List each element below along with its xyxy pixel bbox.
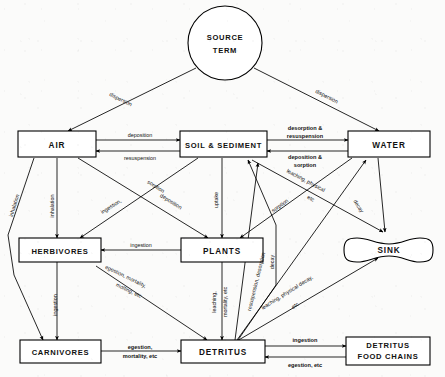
label-water-to-plants: sorption xyxy=(270,197,289,213)
air-label: AIR xyxy=(49,141,66,150)
diagram-canvas: SOURCE TERM AIR SOIL & SEDIMENT WATER HE… xyxy=(0,0,445,377)
label-soil-to-plants: uptake xyxy=(213,192,219,208)
label-soil-to-water-line2: resuspension xyxy=(287,133,324,139)
label-water-to-soil-line2: sorption xyxy=(294,162,317,168)
label-air-to-herbivores: inhalation xyxy=(49,194,55,217)
label-soil-to-sink-line1: leaching, physical xyxy=(286,168,326,193)
node-sink[interactable]: SINK xyxy=(344,238,433,262)
label-soil-to-herbivores-line2: deposition xyxy=(159,192,183,210)
detritus-label: DETRITUS xyxy=(199,348,247,357)
node-source-term[interactable]: SOURCE TERM xyxy=(188,6,262,80)
soil-sediment-label: SOIL & SEDIMENT xyxy=(185,141,262,150)
plants-label: PLANTS xyxy=(203,247,241,256)
edge-source-to-water xyxy=(254,68,379,131)
label-soil-to-air: resuspension xyxy=(124,155,156,161)
node-water[interactable]: WATER xyxy=(348,131,430,157)
label-plants-to-detritus-line2: mortality, etc xyxy=(222,287,228,317)
node-carnivores[interactable]: CARNIVORES xyxy=(20,340,101,363)
pathway-diagram: SOURCE TERM AIR SOIL & SEDIMENT WATER HE… xyxy=(0,0,445,377)
node-detritus-food-chains[interactable]: DETRITUS FOOD CHAINS xyxy=(346,337,430,365)
edge-herbivores-to-detritus xyxy=(96,266,207,340)
source-term-label-line1: SOURCE xyxy=(207,33,244,42)
label-air-to-soil: deposition xyxy=(128,132,153,138)
edges-layer xyxy=(8,68,385,357)
carnivores-label: CARNIVORES xyxy=(32,348,90,357)
node-soil-sediment[interactable]: SOIL & SEDIMENT xyxy=(180,131,267,157)
label-source-to-water: dispersion xyxy=(315,88,340,105)
label-soil-to-sink-line2: etc xyxy=(306,194,315,203)
node-detritus[interactable]: DETRITUS xyxy=(181,340,265,363)
label-soil-to-herbivores-line1: ingestion, xyxy=(100,197,123,215)
herbivores-label: HERBIVORES xyxy=(31,247,88,256)
label-detritus-to-sink-line1: leaching, physical decay, xyxy=(260,274,314,311)
label-carnivores-to-detritus-line1: egestion, xyxy=(128,344,153,350)
detritus-food-chains-label-line2: FOOD CHAINS xyxy=(358,352,419,361)
sink-label: SINK xyxy=(377,246,400,255)
source-term-label-line2: TERM xyxy=(213,46,237,55)
label-carnivores-to-detritus-line2: mortality, etc xyxy=(123,353,157,359)
label-plants-to-herbivores: ingestion xyxy=(130,242,152,248)
label-detritus-to-chains: ingestion xyxy=(293,337,318,343)
label-water-to-soil-line1: deposition & xyxy=(288,154,322,160)
label-air-to-carnivores: inhalation xyxy=(8,193,20,217)
detritus-food-chains-label-line1: DETRITUS xyxy=(366,341,410,350)
label-water-to-sink: decay xyxy=(352,198,365,214)
edge-soil-to-sink xyxy=(252,160,383,232)
label-plants-to-detritus-line1: leaching, xyxy=(211,291,217,313)
node-herbivores[interactable]: HERBIVORES xyxy=(19,238,101,262)
edge-source-to-air xyxy=(68,68,196,131)
label-chains-to-detritus: egestion, etc xyxy=(288,362,322,368)
node-air[interactable]: AIR xyxy=(18,131,96,157)
edge-water-to-sink xyxy=(378,158,385,232)
label-herbivores-to-carnivores: ingestion xyxy=(52,294,58,316)
label-soil-to-water-line1: desorption & xyxy=(288,125,323,131)
water-label: WATER xyxy=(372,141,405,150)
node-plants[interactable]: PLANTS xyxy=(181,238,263,262)
label-soil-to-detritus: decay xyxy=(269,255,275,270)
label-detritus-to-sink-line2: etc xyxy=(290,301,300,310)
